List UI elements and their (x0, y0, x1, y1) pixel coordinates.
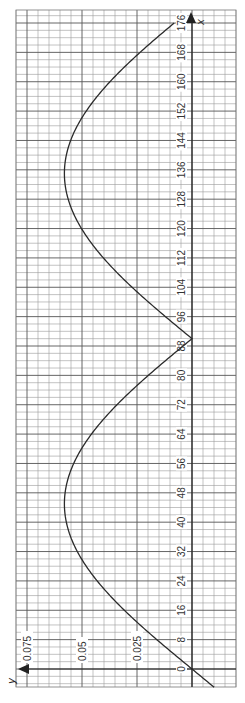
x-tick-label: 8 (176, 636, 187, 642)
x-axis-label: x (194, 19, 206, 26)
x-tick-label: 0 (176, 666, 187, 672)
x-tick-label: 104 (176, 278, 187, 295)
x-tick-label: 48 (176, 487, 187, 499)
y-axis-arrow-icon (18, 664, 29, 674)
x-tick-label: 176 (176, 14, 187, 31)
x-tick-label: 168 (176, 44, 187, 61)
x-tick-label: 128 (176, 190, 187, 207)
line-chart: 0816243240485664728088961041121201281361… (0, 0, 245, 703)
x-tick-label: 160 (176, 73, 187, 90)
x-tick-label: 112 (176, 250, 187, 266)
x-tick-label: 56 (176, 457, 187, 469)
x-tick-label: 32 (176, 546, 187, 558)
x-tick-label: 72 (176, 399, 187, 411)
x-tick-label: 24 (176, 575, 187, 587)
y-tick-label: 0.05 (77, 641, 88, 661)
x-tick-label: 120 (176, 220, 187, 237)
x-tick-label: 144 (176, 132, 187, 149)
x-tick-label: 136 (176, 161, 187, 178)
x-tick-label: 16 (176, 604, 187, 616)
y-axis-label: y (5, 677, 17, 685)
x-axis-tick-labels: 0816243240485664728088961041121201281361… (176, 13, 187, 673)
x-tick-label: 152 (176, 102, 187, 119)
y-tick-label: 0.075 (22, 636, 33, 661)
x-tick-label: 96 (176, 311, 187, 323)
x-tick-label: 40 (176, 516, 187, 528)
x-tick-label: 80 (176, 369, 187, 381)
y-tick-label: 0.025 (132, 636, 143, 661)
x-tick-label: 64 (176, 428, 187, 440)
grid-minor-lines (16, 10, 236, 687)
